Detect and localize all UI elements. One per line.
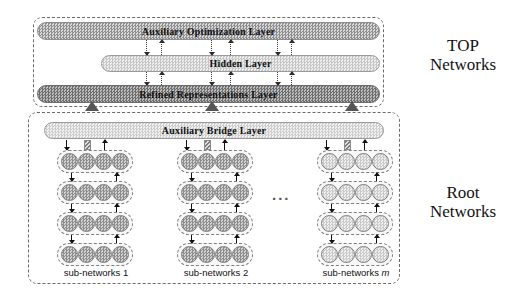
bridge-up-arrow-icon <box>224 140 225 150</box>
subnetm-node-row <box>317 150 393 173</box>
node <box>372 184 389 201</box>
node <box>112 153 129 170</box>
dotted-arrow-down-icon <box>211 72 213 85</box>
bridge-to-refined-triangle-icon <box>205 101 219 111</box>
sub-networks-m-label-index: m <box>382 267 390 278</box>
subnetm-down-arrow-icon <box>331 173 332 181</box>
diagram-canvas: Auxiliary Optimization Layer Hidden Laye… <box>0 0 523 300</box>
node <box>181 153 198 170</box>
bridge-to-refined-triangle-icon <box>345 101 359 111</box>
bridge-to-refined-triangle-icon <box>85 101 99 111</box>
subnetm-node-row <box>317 243 393 266</box>
node <box>112 184 129 201</box>
node <box>355 184 372 201</box>
subnetm-down-arrow-icon <box>331 204 332 212</box>
subnet2-up-arrow-icon <box>236 173 237 181</box>
node <box>232 215 249 232</box>
node <box>321 246 338 263</box>
sub-networks-1-label-text: sub-networks 1 <box>64 267 128 278</box>
ellipsis-separator: ... <box>272 186 291 203</box>
subnet1-up-arrow-icon <box>116 173 117 181</box>
subnet1-down-arrow-icon <box>71 235 72 243</box>
subnet2-down-arrow-icon <box>191 235 192 243</box>
dotted-arrow-up-icon <box>291 72 293 85</box>
node <box>181 246 198 263</box>
subnet1-node-row <box>57 181 133 204</box>
node <box>61 246 78 263</box>
node <box>112 246 129 263</box>
subnet2-node-row <box>177 150 253 173</box>
subnet1-node-row <box>57 243 133 266</box>
subnet2-node-row <box>177 212 253 235</box>
node <box>61 184 78 201</box>
node <box>215 153 232 170</box>
node <box>198 246 215 263</box>
subnet1-down-arrow-icon <box>71 204 72 212</box>
node <box>355 246 372 263</box>
subnet1-up-arrow-icon <box>116 204 117 212</box>
bridge-hatched-connector <box>84 140 91 150</box>
subnetm-node-row <box>317 181 393 204</box>
sub-networks-2-label: sub-networks 2 <box>175 267 257 278</box>
node <box>338 184 355 201</box>
subnet1-node-row <box>57 212 133 235</box>
node <box>61 215 78 232</box>
node <box>95 215 112 232</box>
node <box>355 153 372 170</box>
subnet2-node-row <box>177 181 253 204</box>
bridge-hatched-connector <box>204 140 211 150</box>
node <box>198 215 215 232</box>
node <box>232 153 249 170</box>
node <box>78 246 95 263</box>
node <box>215 215 232 232</box>
bridge-down-arrow-icon <box>186 140 187 150</box>
node <box>198 153 215 170</box>
root-networks-label: Root Networks <box>408 183 518 221</box>
dotted-arrow-down-icon <box>277 72 279 85</box>
node <box>95 246 112 263</box>
node <box>95 184 112 201</box>
node <box>78 184 95 201</box>
bridge-down-arrow-icon <box>326 140 327 150</box>
subnet2-node-row <box>177 243 253 266</box>
node <box>338 215 355 232</box>
dotted-arrow-up-icon <box>230 40 232 55</box>
dotted-arrow-up-icon <box>161 40 163 55</box>
dotted-arrow-up-icon <box>230 72 232 85</box>
node <box>215 184 232 201</box>
dotted-arrow-up-icon <box>161 72 163 85</box>
node <box>78 215 95 232</box>
node <box>181 184 198 201</box>
node <box>232 184 249 201</box>
node <box>181 215 198 232</box>
node <box>338 246 355 263</box>
bridge-hatched-connector <box>344 140 351 150</box>
sub-networks-m-label-text: sub-networks <box>322 267 381 278</box>
dotted-arrow-down-icon <box>146 72 148 85</box>
dotted-arrow-down-icon <box>146 40 148 55</box>
subnetm-up-arrow-icon <box>376 235 377 243</box>
sub-networks-m-label: sub-networks m <box>313 267 399 278</box>
dotted-arrow-down-icon <box>211 40 213 55</box>
bridge-up-arrow-icon <box>364 140 365 150</box>
sub-networks-1-label: sub-networks 1 <box>55 267 137 278</box>
hidden-layer-bar: Hidden Layer <box>101 55 380 72</box>
subnet2-up-arrow-icon <box>236 204 237 212</box>
node <box>321 153 338 170</box>
node <box>215 246 232 263</box>
auxiliary-bridge-layer-bar: Auxiliary Bridge Layer <box>44 122 384 139</box>
subnetm-up-arrow-icon <box>376 173 377 181</box>
dotted-arrow-down-icon <box>277 40 279 55</box>
node <box>61 153 78 170</box>
subnet2-up-arrow-icon <box>236 235 237 243</box>
auxiliary-optimization-layer-bar: Auxiliary Optimization Layer <box>37 22 380 40</box>
node <box>338 153 355 170</box>
subnetm-down-arrow-icon <box>331 235 332 243</box>
subnet1-node-row <box>57 150 133 173</box>
node <box>95 153 112 170</box>
subnetm-up-arrow-icon <box>376 204 377 212</box>
node <box>232 246 249 263</box>
node <box>372 153 389 170</box>
bridge-down-arrow-icon <box>66 140 67 150</box>
node <box>78 153 95 170</box>
